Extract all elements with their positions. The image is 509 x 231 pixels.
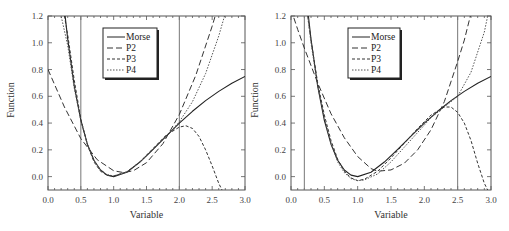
- y-tick-label: 0.8: [275, 65, 287, 75]
- chart-figure: 0.00.51.01.52.02.53.00.00.20.40.60.81.01…: [0, 0, 509, 231]
- legend-label-p2: P2: [371, 43, 381, 53]
- legend-label-morse: Morse: [371, 32, 395, 42]
- x-tick-label: 0.0: [285, 195, 297, 205]
- y-axis-title: Function: [249, 82, 260, 118]
- legend-label-morse: Morse: [126, 32, 150, 42]
- y-tick-label: 1.2: [275, 11, 286, 21]
- x-tick-label: 2.0: [174, 195, 186, 205]
- y-tick-label: 1.2: [32, 11, 43, 21]
- legend-label-p4: P4: [126, 65, 136, 75]
- x-tick-label: 2.5: [207, 195, 219, 205]
- x-tick-label: 1.0: [108, 195, 120, 205]
- x-axis-title: Variable: [130, 209, 164, 220]
- y-tick-label: 1.0: [32, 38, 44, 48]
- x-tick-label: 0.5: [319, 195, 331, 205]
- legend-label-p2: P2: [126, 43, 136, 53]
- x-tick-label: 3.0: [239, 195, 251, 205]
- x-tick-label: 3.0: [485, 195, 497, 205]
- y-tick-label: 0.4: [32, 118, 44, 128]
- x-tick-label: 0.0: [42, 195, 54, 205]
- y-tick-label: 0.2: [275, 145, 286, 155]
- x-axis-title: Variable: [374, 209, 408, 220]
- legend-label-p3: P3: [371, 54, 381, 64]
- x-tick-label: 1.0: [352, 195, 364, 205]
- right-plot-panel: 0.00.51.01.52.02.53.00.00.20.40.60.81.01…: [249, 0, 497, 220]
- series-line-p4: [58, 0, 225, 176]
- series-line-p4: [304, 0, 487, 181]
- x-tick-label: 1.5: [141, 195, 153, 205]
- y-tick-label: 0.6: [275, 91, 287, 101]
- y-axis-title: Function: [5, 82, 16, 118]
- legend-label-p4: P4: [371, 65, 381, 75]
- y-tick-label: 0.6: [32, 91, 44, 101]
- y-tick-label: 1.0: [275, 38, 287, 48]
- x-tick-label: 2.5: [452, 195, 464, 205]
- y-tick-label: 0.4: [275, 118, 287, 128]
- x-tick-label: 0.5: [75, 195, 87, 205]
- left-plot-panel: 0.00.51.01.52.02.53.00.00.20.40.60.81.01…: [5, 0, 251, 220]
- series-line-morse: [304, 0, 491, 177]
- legend-label-p3: P3: [126, 54, 136, 64]
- y-tick-label: 0.0: [275, 172, 287, 182]
- y-tick-label: 0.2: [32, 145, 43, 155]
- y-tick-label: 0.0: [32, 172, 44, 182]
- x-tick-label: 2.0: [419, 195, 431, 205]
- x-tick-label: 1.5: [385, 195, 397, 205]
- y-tick-label: 0.8: [32, 65, 44, 75]
